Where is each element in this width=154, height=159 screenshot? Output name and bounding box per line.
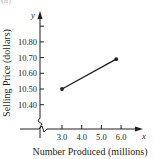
y-tick-label: 10.50	[18, 84, 37, 94]
y-tick-label: 10.70	[18, 53, 37, 63]
x-tick-label: 5.0	[96, 132, 107, 142]
x-axis-title: Number Produced (millions)	[33, 146, 148, 158]
y-axis-title: Selling Price (dollars)	[1, 29, 13, 117]
y-axis-arrow-icon	[38, 11, 43, 19]
y-tick-label: 10.60	[18, 68, 37, 78]
data-point-marker	[114, 57, 118, 61]
series-line	[62, 59, 116, 89]
x-axis-variable: x	[141, 131, 146, 141]
y-tick-label: 10.40	[18, 100, 37, 110]
x-tick-label: 3.0	[57, 132, 68, 142]
data-point-marker	[60, 87, 64, 91]
x-tick-label: 4.0	[76, 132, 87, 142]
x-axis: x 3.04.05.06.0	[20, 125, 146, 142]
data-series	[60, 57, 118, 91]
y-axis: y 10.4010.5010.6010.7010.80	[18, 10, 44, 138]
y-axis-variable: y	[30, 10, 35, 20]
x-tick-label: 6.0	[116, 132, 127, 142]
line-chart: y 10.4010.5010.6010.7010.80 x 3.04.05.06…	[0, 0, 154, 159]
y-tick-label: 10.80	[18, 37, 37, 47]
